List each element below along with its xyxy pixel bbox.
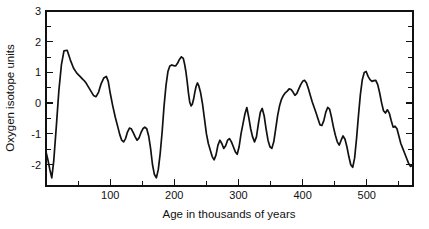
y-tick-label-0: 0 [35, 97, 41, 109]
y-axis-ticks [46, 11, 53, 165]
y-tick-label-neg1: -1 [31, 128, 41, 140]
y-tick-label-3: 3 [35, 5, 41, 17]
plot-frame [46, 11, 413, 186]
x-axis-ticks [78, 179, 399, 186]
x-tick-label-400: 400 [293, 189, 311, 201]
y-tick-label-2: 2 [35, 36, 41, 48]
chart-figure: 3 2 1 0 -1 -2 100 200 300 400 500 Oxygen… [0, 0, 429, 229]
oxygen-isotope-line-chart: 3 2 1 0 -1 -2 100 200 300 400 500 Oxygen… [0, 0, 429, 229]
data-series-line [46, 50, 412, 178]
y-axis-right-ticks [406, 11, 413, 165]
x-tick-label-500: 500 [358, 189, 376, 201]
x-axis-title: Age in thousands of years [163, 208, 296, 220]
y-axis-title: Oxygen isotope units [4, 44, 16, 152]
y-tick-label-1: 1 [35, 66, 41, 78]
x-tick-label-200: 200 [165, 189, 183, 201]
x-tick-label-300: 300 [229, 189, 247, 201]
y-tick-label-neg2: -2 [31, 159, 41, 171]
x-tick-label-100: 100 [101, 189, 119, 201]
